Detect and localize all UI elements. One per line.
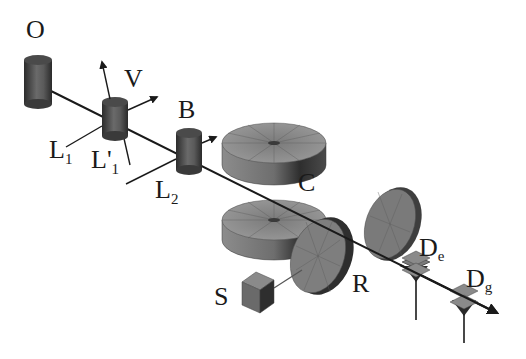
label-de: De (419, 233, 445, 264)
label-l1-prime: L'1 (91, 145, 119, 177)
label-l2: L2 (155, 175, 178, 207)
oven-o (24, 55, 52, 109)
label-b: B (178, 95, 195, 124)
label-s: S (214, 282, 228, 311)
label-v: V (124, 64, 143, 93)
label-dg: Dg (466, 264, 493, 295)
label-c: C (298, 168, 315, 197)
cylinder-b (176, 128, 202, 175)
arrow-b (202, 137, 216, 143)
label-r: R (352, 269, 370, 298)
arrow-v-right (128, 97, 157, 110)
label-l1: L1 (49, 135, 72, 167)
apparatus-diagram: O V B L1 L'1 L2 C S R De Dg (0, 0, 526, 359)
label-o: O (26, 15, 45, 44)
cylinder-v (102, 97, 128, 141)
cube-s (242, 272, 274, 313)
laser-l1 (66, 126, 102, 147)
arrow-v-up (102, 62, 110, 99)
